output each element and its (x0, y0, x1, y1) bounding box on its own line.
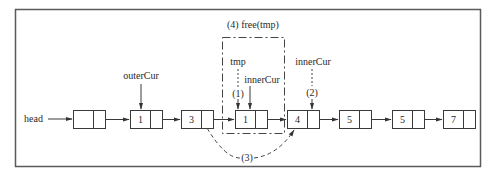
tmp-label: tmp (230, 56, 246, 67)
inner-cur-old-label: innerCur (244, 74, 280, 85)
node-value: 5 (400, 114, 405, 125)
node-value: 1 (138, 114, 143, 125)
node-value: 5 (347, 114, 352, 125)
outer-cur-label: outerCur (123, 70, 159, 81)
step1-label: (1) (232, 88, 244, 100)
node-value: 1 (243, 114, 248, 125)
node-next-cell (202, 111, 214, 129)
node-next-cell (360, 111, 372, 129)
list-node: 3 (182, 111, 214, 129)
node-value: 7 (451, 114, 456, 125)
list-node: 4 (288, 111, 320, 129)
list-node: 5 (340, 111, 372, 129)
diagram-frame (16, 10, 481, 167)
node-next-cell (256, 111, 268, 129)
list-node: 1 (131, 111, 163, 129)
step3-label: (3) (241, 152, 253, 164)
node-next-cell (413, 111, 425, 129)
list-node: 1 (236, 111, 268, 129)
inner-cur-new-label: innerCur (295, 56, 331, 67)
node-next-cell (464, 111, 476, 129)
node-value: 3 (189, 114, 194, 125)
relink-curve-left (207, 128, 240, 158)
node-data-cell (74, 111, 94, 129)
relink-curve-right (254, 130, 294, 158)
list-node: 5 (393, 111, 425, 129)
list-node: 7 (444, 111, 476, 129)
node-next-cell (151, 111, 163, 129)
node-value: 4 (295, 114, 300, 125)
node-next-cell (308, 111, 320, 129)
node-next-cell (94, 111, 106, 129)
head-label: head (24, 113, 43, 124)
step2-label: (2) (306, 87, 318, 99)
linked-list-diagram: head 1314557 outerCur (4) free(tmp) tmp … (0, 0, 494, 177)
step4-label: (4) free(tmp) (227, 19, 279, 31)
list-node (74, 111, 106, 129)
